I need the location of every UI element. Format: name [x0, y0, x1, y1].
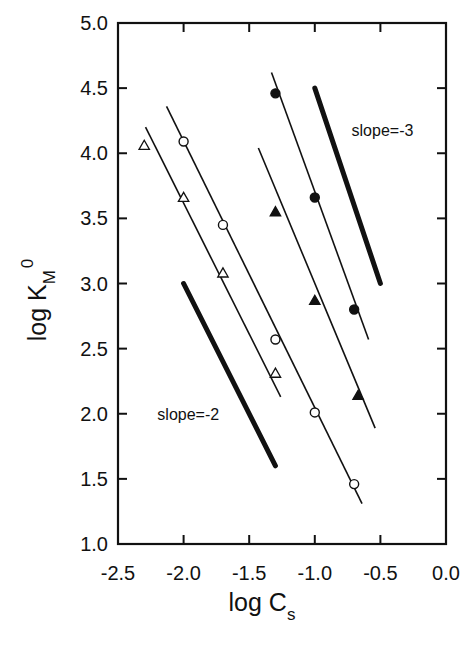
- tick-labels: -2.5-2.0-1.5-1.0-0.50.01.01.52.02.53.03.…: [80, 12, 460, 584]
- data-point-circle-filled: [271, 89, 280, 98]
- x-tick-label: -1.5: [232, 562, 266, 584]
- data-point-circle-open: [350, 480, 359, 489]
- y-axis-label: log KM0: [18, 259, 59, 342]
- y-tick-label: 2.0: [80, 403, 108, 425]
- data-point-circle-open: [218, 220, 227, 229]
- data-point-circle-filled: [350, 305, 359, 314]
- x-axis-label: log Cs: [229, 588, 296, 624]
- y-tick-label: 5.0: [80, 12, 108, 34]
- y-tick-label: 4.0: [80, 142, 108, 164]
- data-point-circle-open: [179, 137, 188, 146]
- slope-reference-line: [315, 88, 381, 283]
- data-point-triangle-open: [139, 140, 149, 149]
- y-tick-label: 1.0: [80, 533, 108, 555]
- data-point-triangle-open: [218, 268, 228, 277]
- slope-reference-line: [184, 284, 276, 466]
- slope-label: slope=-3: [352, 122, 414, 139]
- data-point-circle-open: [271, 335, 280, 344]
- x-tick-label: 0.0: [432, 562, 460, 584]
- data-markers: [139, 89, 363, 489]
- data-point-circle-open: [310, 408, 319, 417]
- y-tick-label: 1.5: [80, 468, 108, 490]
- y-tick-label: 4.5: [80, 77, 108, 99]
- x-tick-label: -2.0: [166, 562, 200, 584]
- x-tick-label: -1.0: [298, 562, 332, 584]
- x-tick-label: -2.5: [101, 562, 135, 584]
- y-tick-label: 3.0: [80, 273, 108, 295]
- data-point-triangle-filled: [270, 207, 280, 216]
- chart: -2.5-2.0-1.5-1.0-0.50.01.01.52.02.53.03.…: [0, 0, 474, 659]
- x-tick-label: -0.5: [363, 562, 397, 584]
- y-tick-label: 2.5: [80, 338, 108, 360]
- data-point-triangle-open: [270, 368, 280, 377]
- data-point-triangle-filled: [310, 295, 320, 304]
- fit-line: [146, 127, 281, 397]
- y-tick-label: 3.5: [80, 207, 108, 229]
- data-point-circle-filled: [310, 193, 319, 202]
- slope-label: slope=-2: [157, 406, 219, 423]
